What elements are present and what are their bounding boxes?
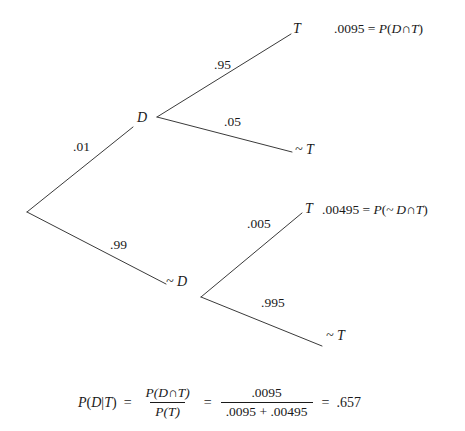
formula-equals-3: = [322, 395, 330, 411]
formula-lhs-close: ) [112, 395, 117, 410]
leaf-not-T-from-D: ~ T [295, 143, 314, 157]
formula-lhs-D: D [91, 395, 101, 410]
formula-equals-1: = [124, 395, 132, 411]
outcome-value-not-D-and-T: .00495 [322, 202, 359, 217]
outcome-expr-close-1: ) [419, 21, 424, 36]
formula-fraction-2-denominator: .0095 + .00495 [221, 402, 313, 420]
formula-fraction-2-numerator: .0095 [246, 385, 286, 402]
formula-fraction-2: .0095 .0095 + .00495 [221, 385, 313, 420]
probability-tree-figure: D ~ D T ~ T T ~ T .01 .99 .95 .05 .005 .… [0, 0, 465, 431]
outcome-expr-P-1: P [379, 21, 387, 36]
edge-label-not-D-to-T: .005 [247, 217, 271, 231]
formula-equals-2: = [204, 395, 212, 411]
outcome-value-D-and-T: .0095 [334, 21, 364, 36]
formula-lhs: P(D|T) [78, 395, 117, 411]
outcome-D-and-T: .0095 = P(D∩T) [334, 22, 423, 36]
branch-root-to-notD [27, 212, 166, 284]
outcome-equals-1: = [368, 21, 376, 36]
formula-lhs-P: P [78, 395, 87, 410]
edge-label-D-to-not-T: .05 [224, 115, 241, 129]
outcome-not-D-and-T: .00495 = P(~ D∩T) [322, 203, 428, 217]
outcome-equals-2: = [363, 202, 371, 217]
branch-D-to-T [157, 34, 291, 117]
outcome-expr-D-2: D [396, 202, 406, 217]
edge-label-D-to-T: .95 [214, 58, 231, 72]
outcome-expr-P-2: P [374, 202, 382, 217]
outcome-expr-open-2: (~ [382, 202, 397, 217]
bayes-formula: P(D|T) = P(D∩T) P(T) = .0095 .0095 + .00… [78, 385, 361, 420]
outcome-expr-D-1: D [392, 21, 402, 36]
formula-fraction-1-numerator: P(D∩T) [141, 385, 195, 402]
formula-fraction-1-denominator: P(T) [150, 402, 185, 420]
formula-lhs-T: T [104, 395, 112, 410]
formula-fraction-1: P(D∩T) P(T) [141, 385, 195, 420]
edge-label-root-to-not-D: .99 [110, 238, 127, 252]
node-not-D: ~ D [166, 275, 187, 289]
outcome-expr-cap-1: ∩ [401, 21, 411, 36]
leaf-T-from-not-D: T [305, 202, 313, 216]
outcome-expr-cap-2: ∩ [406, 202, 416, 217]
edge-label-not-D-to-not-T: .995 [261, 296, 285, 310]
leaf-T-from-D: T [293, 22, 301, 36]
outcome-expr-T-1: T [411, 21, 419, 36]
node-D: D [137, 111, 147, 125]
leaf-not-T-from-not-D: ~ T [326, 329, 345, 343]
edge-label-root-to-D: .01 [73, 140, 90, 154]
outcome-expr-close-2: ) [423, 202, 428, 217]
formula-result: .657 [336, 395, 361, 411]
